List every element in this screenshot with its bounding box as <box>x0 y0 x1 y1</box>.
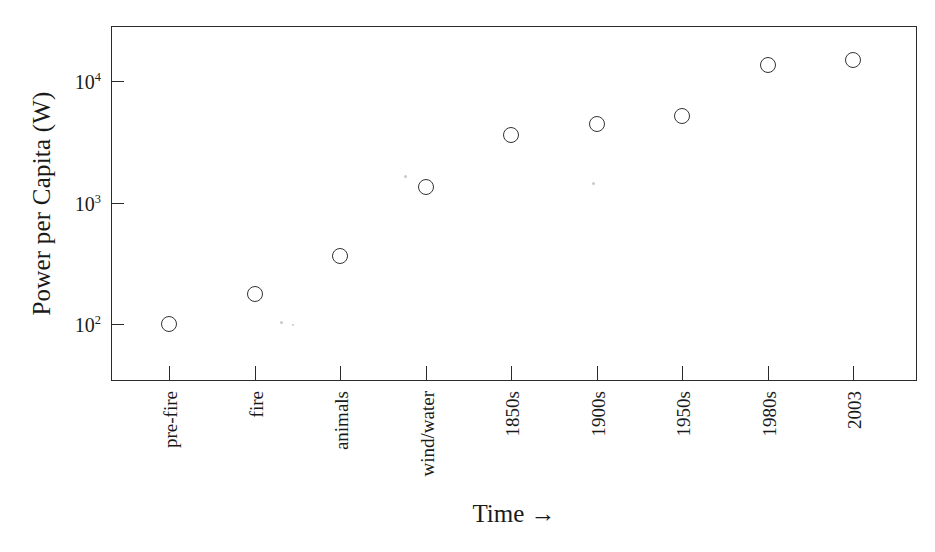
y-axis-tick: 103 <box>111 203 124 204</box>
y-tick-mantissa: 10 <box>75 71 95 93</box>
plot-area: 102103104 pre-firefireanimalswind/water1… <box>111 26 917 381</box>
x-axis-tick-label: 2003 <box>845 391 864 429</box>
x-axis-tick: wind/water <box>426 366 427 381</box>
x-axis-title: Time → <box>111 500 917 528</box>
x-axis-tick-label: wind/water <box>417 391 436 476</box>
x-axis-tick-label: 1900s <box>588 391 607 436</box>
y-axis-tick-label: 103 <box>75 194 101 214</box>
data-point-marker <box>247 286 263 302</box>
scan-speckle <box>592 182 595 185</box>
data-point-marker <box>418 179 434 195</box>
x-axis-tick: 1850s <box>511 366 512 381</box>
x-axis-tick-label: pre-fire <box>161 391 180 448</box>
y-tick-mantissa: 10 <box>75 314 95 336</box>
data-point-marker <box>845 52 861 68</box>
y-tick-exponent: 3 <box>95 192 101 206</box>
y-axis-tick: 102 <box>111 324 124 325</box>
x-axis-tick: 2003 <box>853 366 854 381</box>
data-point-marker <box>161 316 177 332</box>
scan-speckle <box>292 324 294 326</box>
x-axis-tick: 1900s <box>597 366 598 381</box>
y-axis-tick-label: 104 <box>75 72 101 92</box>
y-tick-exponent: 2 <box>95 313 101 327</box>
chart-page: Power per Capita (W) 102103104 pre-firef… <box>0 0 935 552</box>
x-axis-tick: 1980s <box>768 366 769 381</box>
x-axis-tick-label: 1850s <box>503 391 522 436</box>
x-axis-tick: pre-fire <box>169 366 170 381</box>
data-point-marker <box>760 57 776 73</box>
y-tick-mantissa: 10 <box>75 193 95 215</box>
y-axis-tick-label: 102 <box>75 315 101 335</box>
data-point-marker <box>674 108 690 124</box>
data-point-marker <box>503 127 519 143</box>
x-axis-tick-label: animals <box>332 391 351 450</box>
scan-speckle <box>280 321 283 324</box>
scan-speckle <box>404 175 407 178</box>
x-axis-tick-label: 1950s <box>674 391 693 436</box>
x-axis-tick: fire <box>255 366 256 381</box>
data-point-marker <box>332 248 348 264</box>
x-axis-tick: 1950s <box>682 366 683 381</box>
x-axis-tick: animals <box>340 366 341 381</box>
data-point-marker <box>589 116 605 132</box>
y-axis-title: Power per Capita (W) <box>22 26 62 381</box>
y-axis-tick: 104 <box>111 81 124 82</box>
y-tick-exponent: 4 <box>95 70 101 84</box>
x-axis-tick-label: 1980s <box>759 391 778 436</box>
x-axis-tick-label: fire <box>246 391 265 417</box>
